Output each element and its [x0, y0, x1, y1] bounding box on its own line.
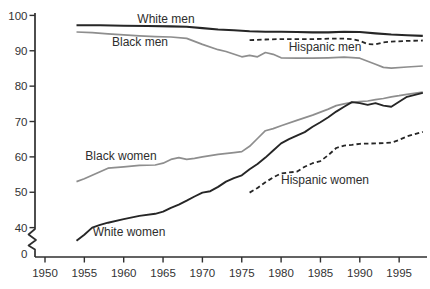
x-tick-label-1950: 1950 [32, 267, 58, 279]
y-tick-label-60: 60 [15, 151, 28, 163]
series-label-black-women: Black women [85, 149, 156, 163]
x-tick-label-1965: 1965 [150, 267, 176, 279]
x-tick-label-1975: 1975 [229, 267, 255, 279]
y-tick-label-80: 80 [15, 80, 28, 92]
y-tick-label-70: 70 [15, 116, 28, 128]
y-axis [29, 13, 37, 257]
series-label-white-women: White women [93, 225, 166, 239]
series-label-white-men: White men [137, 12, 194, 26]
y-tick-label-90: 90 [15, 45, 28, 57]
x-tick-label-1960: 1960 [111, 267, 137, 279]
x-tick-label-1990: 1990 [347, 267, 373, 279]
y-tick-label-40: 40 [15, 222, 28, 234]
chart-svg: 1009080706050400195019551960196519701975… [0, 0, 430, 289]
chart: 1009080706050400195019551960196519701975… [0, 0, 430, 289]
series-labels: Black menWhite menBlack womenWhite women… [85, 12, 369, 239]
series-label-black-men: Black men [112, 35, 168, 49]
x-tick-label-1955: 1955 [72, 267, 98, 279]
y-tick-label-50: 50 [15, 186, 28, 198]
series-lines [77, 25, 423, 240]
x-tick-label-1970: 1970 [190, 267, 216, 279]
y-tick-label-100: 100 [8, 10, 27, 22]
y-tick-label-0: 0 [21, 248, 27, 260]
series-label-hispanic-women: Hispanic women [281, 173, 369, 187]
x-tick-label-1985: 1985 [308, 267, 334, 279]
series-label-hispanic-men: Hispanic men [289, 40, 362, 54]
x-tick-label-1995: 1995 [386, 267, 412, 279]
x-tick-label-1980: 1980 [268, 267, 294, 279]
